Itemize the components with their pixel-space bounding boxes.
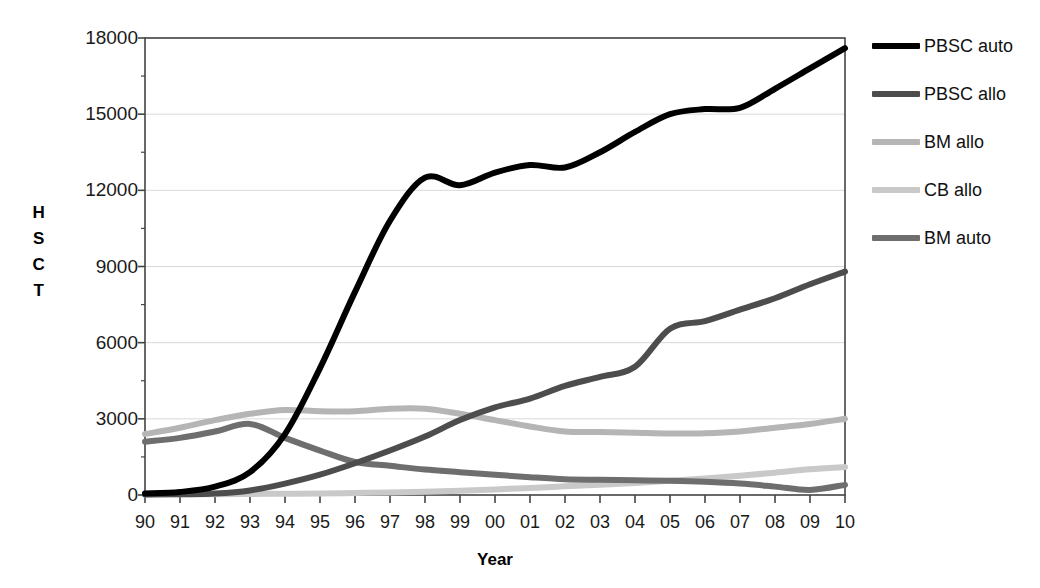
x-tick-label: 07: [720, 512, 760, 533]
legend-line-icon: [872, 139, 920, 145]
x-tick-label: 04: [615, 512, 655, 533]
legend-item-label: PBSC allo: [920, 84, 1006, 105]
legend-item-label: BM allo: [920, 132, 984, 153]
x-tick-label: 00: [475, 512, 515, 533]
legend-line-icon: [872, 43, 920, 49]
legend-line-icon: [872, 187, 920, 193]
legend-item[interactable]: CB allo: [872, 166, 1040, 214]
x-tick-label: 01: [510, 512, 550, 533]
x-tick-label: 03: [580, 512, 620, 533]
chart-figure: H S C T 0300060009000120001500018000 909…: [0, 0, 1040, 588]
series-line: [145, 272, 845, 495]
x-tick-label: 02: [545, 512, 585, 533]
x-tick-label: 96: [335, 512, 375, 533]
x-tick-label: 93: [230, 512, 270, 533]
x-tick-label: 90: [125, 512, 165, 533]
x-tick-label: 91: [160, 512, 200, 533]
legend-item-label: PBSC auto: [920, 36, 1013, 57]
legend-item[interactable]: PBSC auto: [872, 22, 1040, 70]
chart-legend: PBSC autoPBSC alloBM alloCB alloBM auto: [872, 22, 1040, 262]
x-axis-title: Year: [145, 550, 845, 570]
x-tick-label: 97: [370, 512, 410, 533]
legend-line-icon: [872, 235, 920, 241]
x-tick-label: 98: [405, 512, 445, 533]
legend-line-icon: [872, 91, 920, 97]
x-tick-label: 99: [440, 512, 480, 533]
legend-item[interactable]: BM allo: [872, 118, 1040, 166]
x-tick-label: 95: [300, 512, 340, 533]
x-tick-label: 94: [265, 512, 305, 533]
x-tick-label: 05: [650, 512, 690, 533]
series-pbsc-allo: [145, 272, 845, 495]
legend-item-label: CB allo: [920, 180, 982, 201]
x-tick-label: 92: [195, 512, 235, 533]
legend-item[interactable]: BM auto: [872, 214, 1040, 262]
legend-item[interactable]: PBSC allo: [872, 70, 1040, 118]
legend-item-label: BM auto: [920, 228, 991, 249]
x-tick-label: 06: [685, 512, 725, 533]
x-tick-label: 09: [790, 512, 830, 533]
x-tick-label: 10: [825, 512, 865, 533]
x-tick-label: 08: [755, 512, 795, 533]
